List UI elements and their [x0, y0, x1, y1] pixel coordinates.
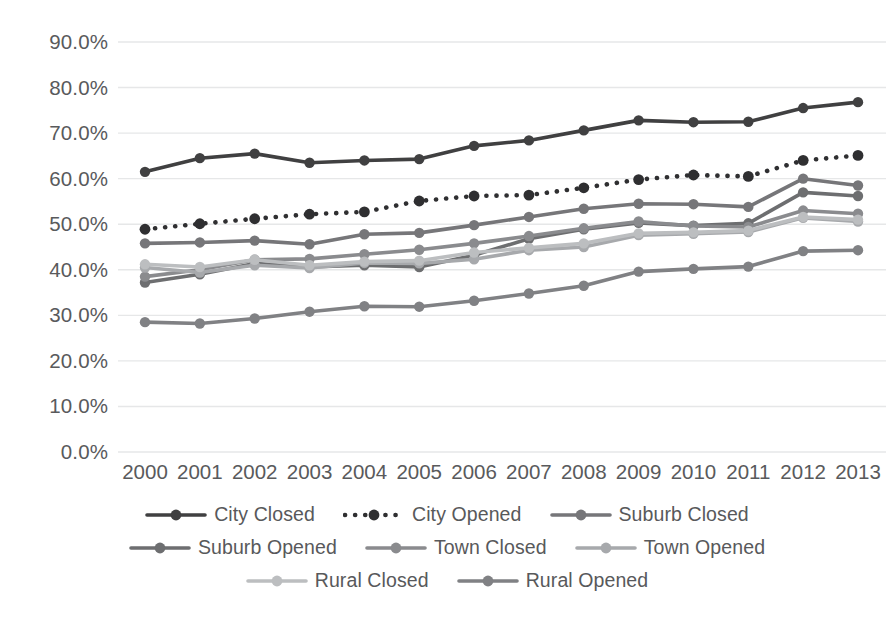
data-point: [359, 301, 369, 311]
data-point: [414, 154, 424, 164]
legend-label: Suburb Opened: [198, 536, 337, 559]
data-point: [304, 239, 314, 249]
legend-marker-icon: [550, 507, 612, 523]
data-point: [524, 288, 534, 298]
y-axis: 0.0%10.0%20.0%30.0%40.0%50.0%60.0%70.0%8…: [0, 0, 108, 470]
data-point: [853, 97, 863, 107]
legend-label: Rural Closed: [315, 569, 429, 592]
data-point: [194, 218, 205, 229]
data-point: [798, 173, 808, 183]
data-point: [579, 223, 589, 233]
y-axis-tick-label: 30.0%: [8, 303, 108, 327]
data-point: [688, 117, 698, 127]
chart-legend: City ClosedCity OpenedSuburb ClosedSubur…: [0, 498, 894, 608]
data-point: [469, 296, 479, 306]
data-point: [633, 174, 644, 185]
x-axis-tick-label: 2005: [396, 460, 442, 484]
legend-label: City Closed: [214, 503, 315, 526]
data-point: [853, 245, 863, 255]
data-point: [140, 167, 150, 177]
legend-item-town-opened[interactable]: Town Opened: [575, 536, 765, 559]
data-point: [195, 318, 205, 328]
y-axis-tick-label: 80.0%: [8, 76, 108, 100]
data-point: [853, 191, 863, 201]
data-point: [359, 256, 369, 266]
data-point: [249, 313, 259, 323]
y-axis-tick-label: 50.0%: [8, 212, 108, 236]
line-chart: 0.0%10.0%20.0%30.0%40.0%50.0%60.0%70.0%8…: [0, 0, 894, 629]
y-axis-tick-label: 40.0%: [8, 258, 108, 282]
x-axis-tick-label: 2000: [122, 460, 168, 484]
x-axis-tick-label: 2004: [342, 460, 388, 484]
x-axis-tick-label: 2003: [287, 460, 333, 484]
y-axis-tick-label: 70.0%: [8, 121, 108, 145]
data-point: [633, 216, 643, 226]
data-point: [304, 209, 315, 220]
data-point: [414, 196, 425, 207]
y-axis-tick-label: 20.0%: [8, 349, 108, 373]
data-point: [140, 317, 150, 327]
x-axis-tick-label: 2012: [780, 460, 826, 484]
data-point: [798, 187, 808, 197]
legend-item-rural-opened[interactable]: Rural Opened: [457, 569, 649, 592]
x-axis-tick-label: 2008: [561, 460, 607, 484]
data-point: [195, 262, 205, 272]
data-point: [140, 259, 150, 269]
data-point: [195, 153, 205, 163]
legend-marker-icon: [246, 573, 308, 589]
legend-label: City Opened: [412, 503, 522, 526]
data-point: [140, 224, 151, 235]
x-axis-tick-label: 2010: [671, 460, 717, 484]
data-point: [688, 264, 698, 274]
data-point: [798, 155, 809, 166]
data-point: [524, 243, 534, 253]
data-point: [414, 301, 424, 311]
data-point: [743, 117, 753, 127]
legend-marker-icon: [145, 507, 207, 523]
legend-item-suburb-closed[interactable]: Suburb Closed: [550, 503, 749, 526]
data-point: [853, 214, 863, 224]
data-point: [633, 115, 643, 125]
data-point: [743, 202, 753, 212]
legend-marker-icon: [129, 540, 191, 556]
data-point: [798, 246, 808, 256]
data-point: [524, 212, 534, 222]
legend-label: Rural Opened: [526, 569, 649, 592]
legend-item-town-closed[interactable]: Town Closed: [365, 536, 547, 559]
data-point: [633, 199, 643, 209]
data-point: [853, 180, 863, 190]
x-axis-tick-label: 2006: [451, 460, 497, 484]
data-point: [578, 182, 589, 193]
series-city-closed: [140, 97, 863, 177]
legend-label: Suburb Closed: [619, 503, 749, 526]
data-point: [304, 260, 314, 270]
data-point: [304, 158, 314, 168]
legend-item-rural-closed[interactable]: Rural Closed: [246, 569, 429, 592]
legend-row: Rural ClosedRural Opened: [0, 564, 894, 597]
x-axis-tick-label: 2013: [835, 460, 881, 484]
x-axis-tick-label: 2007: [506, 460, 552, 484]
data-point: [140, 271, 150, 281]
data-point: [798, 103, 808, 113]
series-rural-opened: [140, 245, 863, 329]
data-point: [195, 237, 205, 247]
data-point: [633, 228, 643, 238]
data-point: [140, 238, 150, 248]
series-line: [145, 102, 858, 172]
x-axis: 2000200120022003200420052006200720082009…: [0, 452, 894, 496]
y-axis-tick-label: 60.0%: [8, 167, 108, 191]
data-point: [633, 266, 643, 276]
data-point: [688, 227, 698, 237]
data-point: [524, 135, 534, 145]
legend-label: Town Opened: [644, 536, 765, 559]
data-point: [743, 261, 753, 271]
legend-item-city-opened[interactable]: City Opened: [343, 503, 522, 526]
data-point: [798, 212, 808, 222]
data-point: [688, 199, 698, 209]
legend-row: Suburb OpenedTown ClosedTown Opened: [0, 531, 894, 564]
legend-item-city-closed[interactable]: City Closed: [145, 503, 315, 526]
legend-marker-icon: [575, 540, 637, 556]
legend-item-suburb-opened[interactable]: Suburb Opened: [129, 536, 337, 559]
x-axis-tick-label: 2001: [177, 460, 223, 484]
data-point: [304, 306, 314, 316]
